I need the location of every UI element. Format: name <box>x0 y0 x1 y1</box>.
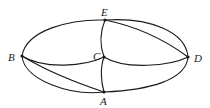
node-c <box>102 55 105 58</box>
node-e <box>103 18 106 21</box>
graph-diagram: E B C D A <box>0 0 210 108</box>
edge-b-c <box>22 56 104 65</box>
label-b: B <box>8 51 15 63</box>
edge-e-d-outer <box>105 20 188 57</box>
label-d: D <box>193 52 202 64</box>
edge-c-d <box>104 57 188 65</box>
label-a: A <box>99 95 107 107</box>
node-a <box>102 90 105 93</box>
node-b <box>20 54 23 57</box>
edge-e-d-chord <box>105 20 188 57</box>
node-d <box>186 55 189 58</box>
label-c: C <box>93 50 101 62</box>
edge-c-a <box>101 57 104 92</box>
label-e: E <box>100 6 108 18</box>
edge-e-c <box>101 20 105 57</box>
